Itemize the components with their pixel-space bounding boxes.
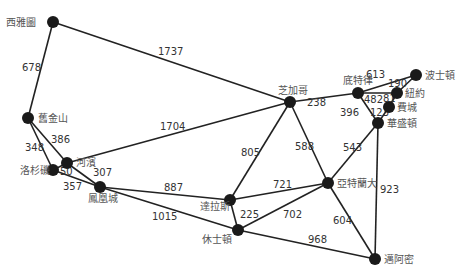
edge-weight-label: 396 <box>340 107 359 118</box>
edge-weight-label: 887 <box>164 182 183 193</box>
node-chicago <box>284 96 296 108</box>
edge-weight-label: 1704 <box>160 121 185 132</box>
nodes-layer <box>22 16 422 265</box>
edge-weight-label: 923 <box>380 184 399 195</box>
node-houston <box>232 224 244 236</box>
node-label-newyork: 紐約 <box>405 87 425 99</box>
node-newyork <box>391 87 403 99</box>
node-label-philadelphia: 費城 <box>397 101 417 113</box>
edge-seattle-chicago <box>53 22 290 102</box>
node-label-sanfrancisco: 舊金山 <box>38 112 68 124</box>
edge-weight-label: 968 <box>308 234 327 245</box>
node-detroit <box>352 87 364 99</box>
edge-weight-label: 386 <box>51 134 70 145</box>
node-riverside <box>61 157 73 169</box>
edge-weight-label: 238 <box>307 97 326 108</box>
node-label-houston: 休士頓 <box>202 233 232 245</box>
edge-washington-atlanta <box>328 123 378 183</box>
edge-weight-label: 543 <box>343 142 362 153</box>
edge-weight-label: 225 <box>240 209 259 220</box>
edge-weight-label: 357 <box>63 181 82 192</box>
node-label-phoenix: 鳳凰城 <box>88 193 118 204</box>
node-label-detroit: 底特律 <box>343 74 373 86</box>
edge-weight-label: 1737 <box>158 46 183 57</box>
node-sanfrancisco <box>22 112 34 124</box>
edge-weight-label: 307 <box>93 167 112 178</box>
node-label-miami: 邁阿密 <box>384 253 414 265</box>
node-label-losangeles: 洛杉磯 <box>20 164 50 176</box>
node-label-seattle: 西雅圖 <box>6 16 36 28</box>
node-label-atlanta: 亞特蘭大 <box>337 177 377 189</box>
edges-layer <box>28 22 416 259</box>
node-boston <box>410 69 422 81</box>
node-atlanta <box>322 177 334 189</box>
node-label-riverside: 河濱 <box>76 156 96 168</box>
node-label-washington: 華盛頓 <box>387 117 417 129</box>
edge-weight-label: 348 <box>25 142 44 153</box>
edge-weight-label: 702 <box>283 209 302 220</box>
node-phoenix <box>94 181 106 193</box>
edge-weight-label: 482 <box>364 94 383 105</box>
node-miami <box>369 253 381 265</box>
edge-weight-label: 588 <box>295 141 314 152</box>
node-philadelphia <box>383 101 395 113</box>
edge-houston-miami <box>238 230 375 259</box>
node-seattle <box>47 16 59 28</box>
node-label-chicago: 芝加哥 <box>278 84 308 96</box>
edge-weight-label: 721 <box>273 179 292 190</box>
city-distance-graph: 1737678386348501704307357887101580572122… <box>0 0 470 275</box>
node-label-boston: 波士頓 <box>425 69 455 81</box>
edge-weight-label: 678 <box>22 62 41 73</box>
edge-washington-miami <box>375 123 378 259</box>
edge-weight-label: 805 <box>241 147 260 158</box>
edge-weight-label: 604 <box>333 215 352 226</box>
node-washington <box>372 117 384 129</box>
edge-weight-label: 1015 <box>152 211 177 222</box>
node-label-dallas: 達拉斯 <box>200 200 230 212</box>
